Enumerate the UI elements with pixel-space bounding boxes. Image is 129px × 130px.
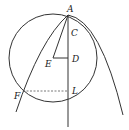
label-E: E	[44, 59, 52, 69]
diagram-canvas: A C D E F L	[0, 0, 129, 130]
geometry-diagram: A C D E F L	[0, 0, 129, 130]
label-C: C	[71, 28, 78, 38]
label-D: D	[71, 54, 79, 64]
label-A: A	[66, 4, 74, 14]
label-F: F	[13, 91, 21, 101]
curve-left-branch	[16, 15, 68, 112]
segment-AE	[53, 15, 68, 58]
label-L: L	[71, 86, 78, 96]
